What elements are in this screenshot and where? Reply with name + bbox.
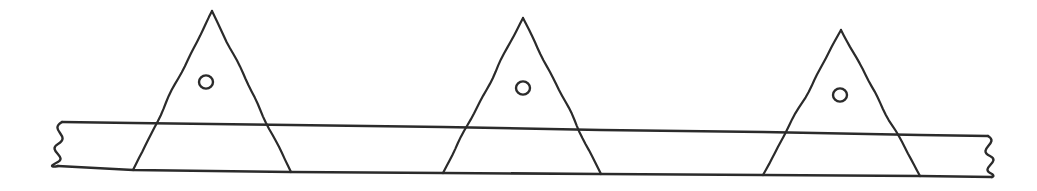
break-symbol-left-icon (52, 122, 63, 167)
triangle-2-left-edge (443, 18, 523, 173)
triangles-group (133, 11, 920, 176)
triangle-2 (443, 18, 601, 174)
beam-top-edge (62, 122, 988, 136)
triangle-1 (133, 11, 291, 172)
triangle-3-left-edge (763, 30, 841, 175)
triangle-3-right-edge (841, 30, 920, 176)
hole-3-icon (833, 88, 847, 101)
triangle-1-right-edge (212, 11, 291, 172)
triangle-1-left-edge (133, 11, 212, 170)
break-symbol-right-icon (985, 136, 993, 177)
break-symbols-group (52, 122, 993, 177)
beam-bottom-edge (58, 166, 992, 177)
diagram-canvas (0, 0, 1037, 191)
triangle-3 (763, 30, 920, 176)
triangle-2-right-edge (523, 18, 601, 174)
hole-1-icon (199, 75, 213, 88)
hole-2-icon (516, 81, 530, 94)
sketch-svg (0, 0, 1037, 191)
beam-group (58, 122, 992, 177)
